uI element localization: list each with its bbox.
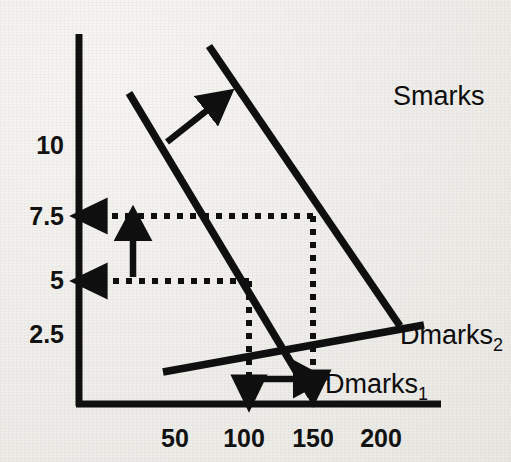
curves: [129, 46, 424, 396]
y-tick-label-7.5: 7.5: [29, 202, 64, 230]
demand-curve-2-label: Dmarks2: [400, 320, 503, 355]
y-axis-tick-labels: 10 7.5 5 2.5: [29, 131, 64, 348]
supply-curve-label: Smarks: [393, 81, 485, 111]
demand-shift-arrow: [167, 108, 210, 142]
demand-curve-dmarks1: [129, 93, 311, 396]
demand-curve-1-label-text: Dmarks: [325, 369, 418, 399]
x-tick-label-50: 50: [161, 424, 189, 452]
demand-curve-dmarks2: [209, 46, 400, 326]
chart-canvas: 10 7.5 5 2.5 50 100 150 200: [0, 0, 511, 462]
demand-curve-2-label-text: Dmarks: [400, 320, 493, 350]
y-tick-label-5: 5: [50, 266, 64, 294]
x-axis-tick-labels: 50 100 150 200: [161, 424, 402, 452]
x-tick-label-200: 200: [360, 424, 402, 452]
demand-curve-2-subscript: 2: [493, 335, 503, 355]
supply-demand-diagram: 10 7.5 5 2.5 50 100 150 200: [0, 0, 511, 462]
x-tick-label-150: 150: [292, 424, 334, 452]
y-tick-label-2.5: 2.5: [29, 320, 64, 348]
curve-labels: Smarks Dmarks2 Dmarks1: [325, 81, 503, 404]
demand-curve-1-label: Dmarks1: [325, 369, 428, 404]
x-tick-label-100: 100: [223, 424, 265, 452]
axes: [76, 34, 441, 406]
demand-curve-1-subscript: 1: [418, 384, 428, 404]
y-tick-label-10: 10: [36, 131, 64, 159]
